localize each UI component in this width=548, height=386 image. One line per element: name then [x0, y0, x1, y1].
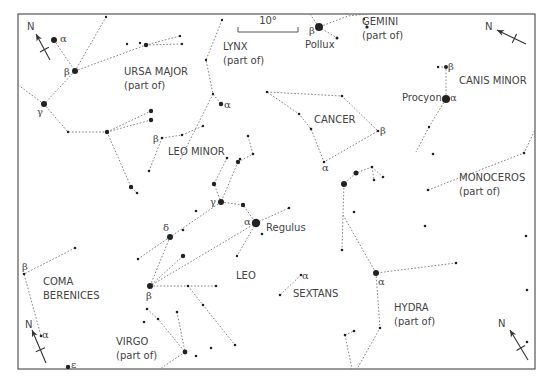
star-dot — [167, 234, 173, 240]
constellation-line — [44, 104, 107, 132]
star-dot — [377, 130, 380, 133]
star-dot — [526, 289, 529, 292]
star-dot — [455, 262, 458, 265]
star-dot — [176, 311, 179, 314]
constellation-line — [345, 335, 352, 369]
star-dot — [144, 43, 148, 47]
star-dot — [341, 95, 344, 98]
star-dot — [353, 330, 356, 333]
star-dot — [136, 192, 139, 195]
star-dot — [67, 131, 69, 133]
star-name-label: Regulus — [266, 222, 306, 233]
star-dot — [341, 249, 344, 252]
star-dot — [424, 225, 427, 228]
star-dot — [428, 126, 430, 128]
star-dot — [51, 37, 57, 43]
constellation-line — [177, 312, 185, 352]
constellation-line — [188, 286, 235, 345]
constellation-label-cancer: CANCER — [314, 114, 356, 125]
scale-bar-label: 10° — [259, 15, 277, 26]
star-greek-label: β — [380, 125, 386, 136]
star-dot — [139, 42, 141, 44]
star-dot — [353, 211, 356, 214]
star-dot — [212, 93, 214, 95]
constellation-line — [146, 44, 182, 45]
star-name-label: Pollux — [305, 39, 335, 50]
star-dot — [149, 118, 153, 122]
constellation-label-monoceros: MONOCEROS(part of) — [459, 172, 525, 197]
constellation-line — [256, 208, 289, 223]
star-dot — [523, 152, 526, 155]
constellation-label-leo-minor: LEO MINOR — [168, 146, 225, 157]
star-dot — [105, 130, 109, 134]
north-label: N — [27, 21, 34, 32]
star-dot — [187, 285, 190, 288]
star-dot — [261, 233, 264, 236]
star-dot — [66, 365, 70, 369]
constellation-line — [170, 202, 221, 237]
star-dot — [252, 219, 260, 227]
star-dot — [221, 19, 223, 21]
star-labels: αβγβαβPolluxβProcyonαβαγαRegulusδβααβαε — [22, 25, 457, 370]
constellation-line — [237, 223, 256, 256]
star-greek-label: α — [42, 329, 49, 340]
star-dot — [148, 170, 151, 173]
star-greek-label: β — [64, 66, 70, 77]
star-dot — [74, 247, 77, 250]
star-greek-label: α — [60, 33, 67, 44]
star-dot — [241, 203, 245, 207]
constellation-label-virgo: VIRGO(part of) — [116, 336, 157, 361]
star-greek-label: α — [322, 162, 329, 173]
star-dot — [234, 344, 237, 347]
star-greek-label: β — [153, 133, 159, 144]
star-chart: 10° NNNN URSA MAJOR(part of)LYNX(part of… — [0, 0, 548, 386]
star-dot — [336, 37, 339, 40]
star-dot — [226, 157, 229, 160]
star-dot — [442, 95, 450, 103]
star-dot — [215, 285, 218, 288]
constellation-line — [138, 237, 170, 259]
constellation-line — [221, 162, 238, 202]
star-dot — [137, 258, 140, 261]
constellation-label-ursa-major: URSA MAJOR(part of) — [124, 66, 188, 91]
star-dot — [315, 23, 323, 31]
star-dot — [252, 153, 255, 156]
constellation-line — [357, 273, 380, 369]
constellation-line — [372, 167, 374, 180]
constellation-line — [345, 331, 354, 335]
star-dot — [310, 128, 313, 131]
star-dot — [382, 176, 385, 179]
star-dot — [179, 35, 181, 37]
star-dot — [279, 294, 282, 297]
constellation-line — [150, 256, 183, 286]
constellation-lines — [18, 14, 535, 369]
star-dot — [181, 43, 183, 45]
star-dot — [298, 113, 301, 116]
star-dot — [126, 43, 128, 45]
north-arrow-icon: N — [485, 21, 526, 44]
constellation-line — [147, 309, 185, 352]
star-dot — [266, 91, 269, 94]
star-greek-label: γ — [210, 196, 216, 207]
star-dot — [288, 207, 291, 210]
constellation-line — [372, 167, 383, 177]
star-dot — [146, 308, 149, 311]
star-dot — [161, 137, 164, 140]
star-dot — [354, 171, 359, 176]
star-dot — [236, 160, 240, 164]
north-label: N — [498, 318, 505, 329]
constellation-line — [75, 17, 106, 71]
star-dot — [205, 59, 207, 61]
star-greek-label: α — [378, 276, 385, 287]
star-dot — [183, 350, 188, 355]
star-greek-label: β — [146, 290, 152, 301]
star-greek-label: β — [22, 261, 28, 272]
star-dot — [427, 189, 430, 192]
star-dot — [212, 182, 216, 186]
star-dot — [195, 210, 198, 213]
scale-bar: 10° — [238, 15, 298, 32]
star-dot — [344, 334, 347, 337]
constellation-line — [267, 92, 378, 162]
constellation-line — [206, 20, 222, 104]
constellation-line — [160, 352, 185, 369]
